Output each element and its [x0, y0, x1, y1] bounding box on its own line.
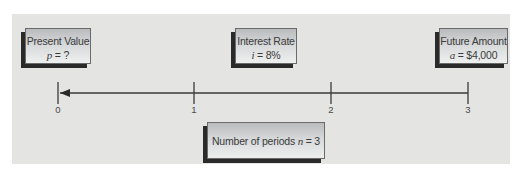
periods-label: Number of periods: [212, 135, 298, 147]
present-value-formula: p = ?: [26, 48, 90, 62]
interest-rate-box: Interest Rate i = 8%: [235, 28, 297, 64]
tick-label-2: 2: [325, 104, 337, 115]
present-value-title: Present Value: [26, 29, 90, 48]
tick-label-1: 1: [188, 104, 200, 115]
tick-label-3: 3: [462, 104, 474, 115]
arrowhead-left-icon: [60, 89, 70, 97]
number-of-periods-box: Number of periods n = 3: [207, 122, 325, 159]
tick-label-0: 0: [52, 104, 64, 115]
present-value-box: Present Value p = ?: [25, 28, 91, 64]
present-value-value: = ?: [52, 49, 69, 61]
periods-value: = 3: [303, 135, 320, 147]
future-amount-formula: a = $4,000: [440, 48, 507, 62]
future-amount-title: Future Amount: [440, 29, 507, 48]
interest-rate-value: = 8%: [254, 49, 280, 61]
future-amount-value: = $4,000: [455, 49, 497, 61]
periods-formula: Number of periods n = 3: [208, 123, 324, 148]
future-amount-box: Future Amount a = $4,000: [439, 28, 508, 64]
interest-rate-formula: i = 8%: [236, 48, 296, 62]
interest-rate-title: Interest Rate: [236, 29, 296, 48]
